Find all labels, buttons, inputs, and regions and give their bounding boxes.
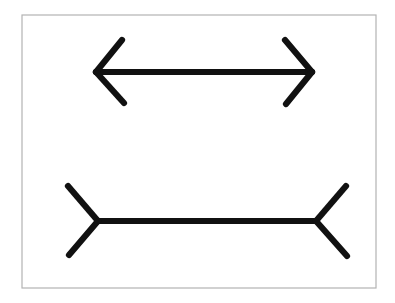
muller-lyer-figure [0,0,395,303]
illusion-plate [0,0,395,303]
